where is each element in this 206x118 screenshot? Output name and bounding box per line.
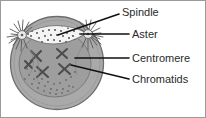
label-centromere: Centromere: [132, 52, 190, 64]
label-chromatids: Chromatids: [132, 73, 189, 85]
labels-group: Spindle Aster Centromere Chromatids: [122, 6, 190, 85]
label-aster: Aster: [132, 28, 158, 40]
centriole-left: [21, 34, 24, 37]
figure-container: Spindle Aster Centromere Chromatids: [0, 0, 206, 118]
cell-division-figure: Spindle Aster Centromere Chromatids: [1, 1, 206, 118]
label-spindle: Spindle: [122, 6, 159, 18]
